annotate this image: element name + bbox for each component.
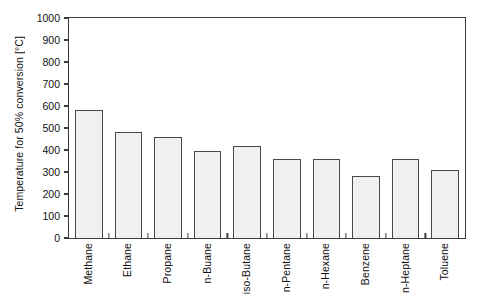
y-tick-label: 300	[42, 166, 64, 178]
x-tick-mark	[187, 233, 188, 238]
x-label-text: Ethane	[121, 243, 133, 277]
x-label-text: Benzene	[359, 243, 371, 285]
bar-chart-figure: Temperature for 50% conversion [°C] 0100…	[0, 0, 484, 308]
y-tick-100: 100	[42, 210, 69, 222]
x-label-text: n-Hexane	[319, 243, 331, 289]
x-label-methane: Methane	[81, 243, 95, 305]
y-tick-label: 500	[42, 122, 64, 134]
y-tick-200: 200	[42, 188, 69, 200]
x-tick-mark	[346, 233, 347, 238]
x-tick-mark	[227, 233, 228, 238]
y-tick-mark	[64, 105, 69, 106]
y-tick-mark	[64, 127, 69, 128]
bar-iso-butane	[233, 146, 261, 238]
x-tick-mark	[306, 233, 307, 238]
bar-n-buane	[194, 151, 222, 238]
y-axis-title: Temperature for 50% conversion [°C]	[8, 0, 30, 248]
y-tick-label: 100	[42, 210, 64, 222]
x-label-text: Methane	[82, 243, 94, 285]
y-tick-1000: 1000	[37, 12, 69, 24]
y-tick-mark	[64, 237, 69, 238]
x-tick-mark	[108, 233, 109, 238]
y-tick-400: 400	[42, 144, 69, 156]
y-tick-label: 700	[42, 78, 64, 90]
y-tick-mark	[64, 215, 69, 216]
x-label-iso-butane: iso-Butane	[239, 243, 253, 305]
bar-methane	[75, 110, 103, 238]
y-tick-label: 0	[54, 232, 64, 244]
x-label-text: Toluene	[438, 243, 450, 280]
x-label-n-hexane: n-Hexane	[318, 243, 332, 305]
y-tick-mark	[64, 171, 69, 172]
y-tick-0: 0	[54, 232, 69, 244]
bar-toluene	[431, 170, 459, 238]
y-tick-600: 600	[42, 100, 69, 112]
bar-n-pentane	[273, 159, 301, 238]
x-label-propane: Propane	[160, 243, 174, 305]
bar-ethane	[115, 132, 143, 238]
y-tick-mark	[64, 193, 69, 194]
x-label-text: Propane	[161, 243, 173, 283]
y-tick-mark	[64, 17, 69, 18]
x-label-n-buane: n-Buane	[200, 243, 214, 305]
x-label-text: n-Buane	[201, 243, 213, 283]
x-tick-mark	[266, 233, 267, 238]
y-tick-label: 600	[42, 100, 64, 112]
x-label-benzene: Benzene	[358, 243, 372, 305]
y-tick-label: 400	[42, 144, 64, 156]
x-label-text: iso-Butane	[240, 243, 252, 294]
y-tick-800: 800	[42, 56, 69, 68]
x-label-text: n-Heptane	[399, 243, 411, 293]
bar-n-heptane	[392, 159, 420, 238]
y-tick-label: 800	[42, 56, 64, 68]
bar-propane	[154, 137, 182, 238]
y-axis-title-text: Temperature for 50% conversion [°C]	[13, 36, 25, 212]
y-tick-label: 200	[42, 188, 64, 200]
x-tick-mark	[425, 233, 426, 238]
y-tick-mark	[64, 149, 69, 150]
x-label-ethane: Ethane	[120, 243, 134, 305]
bar-n-hexane	[313, 159, 341, 238]
y-tick-mark	[64, 39, 69, 40]
x-label-n-heptane: n-Heptane	[398, 243, 412, 305]
x-tick-mark	[385, 233, 386, 238]
y-tick-mark	[64, 61, 69, 62]
y-tick-mark	[64, 83, 69, 84]
x-label-n-pentane: n-Pentane	[279, 243, 293, 305]
x-label-toluene: Toluene	[437, 243, 451, 305]
x-tick-mark	[148, 233, 149, 238]
y-tick-500: 500	[42, 122, 69, 134]
y-tick-900: 900	[42, 34, 69, 46]
y-tick-label: 900	[42, 34, 64, 46]
bar-benzene	[352, 176, 380, 238]
y-tick-label: 1000	[37, 12, 64, 24]
plot-area: 01002003004005006007008009001000	[68, 17, 466, 239]
x-label-text: n-Pentane	[280, 243, 292, 292]
y-tick-300: 300	[42, 166, 69, 178]
y-tick-700: 700	[42, 78, 69, 90]
